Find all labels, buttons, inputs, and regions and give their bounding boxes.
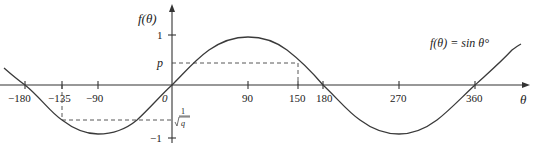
sine-graph-svg: f(θ) θ f(θ) = sin θ° 1 −1 p 1 q −180 −13… [0,0,536,150]
x-tick-270: 270 [390,92,407,104]
svg-text:1: 1 [181,107,185,116]
sine-graph: f(θ) θ f(θ) = sin θ° 1 −1 p 1 q −180 −13… [0,0,536,150]
x-tick-180: 180 [316,92,333,104]
y-axis-arrow-icon [169,4,175,12]
q-guide-line [62,85,172,120]
x-tick-90: 90 [242,92,254,104]
p-label: p [156,56,163,70]
x-tick-m90: −90 [86,92,104,104]
y-tick-1: 1 [157,29,163,41]
function-label: f(θ) = sin θ° [430,36,489,50]
x-axis-arrow-icon [522,82,530,88]
y-axis-label: f(θ) [138,11,157,26]
x-tick-zero: 0 [162,92,168,104]
x-tick-m180: −180 [8,92,31,104]
inv-sqrt-q-label: 1 q [175,107,190,128]
x-tick-360: 360 [466,92,483,104]
x-axis-label: θ [520,92,527,107]
svg-text:q: q [181,119,185,128]
y-tick-neg1: −1 [150,132,162,144]
x-tick-150: 150 [289,92,306,104]
x-tick-m135: −135 [48,92,71,104]
